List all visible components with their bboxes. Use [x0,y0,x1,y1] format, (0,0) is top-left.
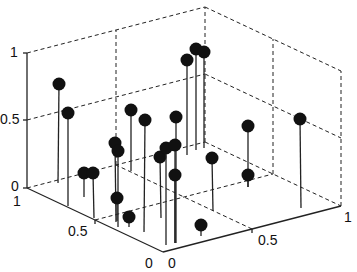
x-tick-label: 0.5 [258,232,278,248]
stem-line [300,119,301,208]
stem-marker [170,111,183,124]
y-tick-label: 0.5 [68,223,88,239]
stems [53,43,307,246]
stem-line [93,173,94,218]
stem-marker [53,78,66,91]
stem-marker [123,211,136,224]
stem-line [160,157,161,218]
stem-point [198,46,211,149]
stem-marker [242,120,255,133]
stem-point [195,219,208,237]
stem-marker [169,169,182,182]
stem-line [58,84,59,183]
stem-marker [242,169,255,182]
stem-marker [87,167,100,180]
x-tick-label: 0 [168,255,176,271]
stem3-plot: 10.5010.5000.51 [0,0,357,272]
stem-marker [195,219,208,232]
stem-marker [169,139,182,152]
stem-marker [111,192,124,205]
stem-point [181,54,194,156]
stem-marker [139,114,152,127]
stem-marker [62,107,75,120]
stem-line [144,120,145,232]
stem-marker [206,152,219,165]
stem-marker [198,46,211,59]
y-tick-label: 0 [145,255,153,271]
stem-point [294,113,307,209]
stem-point [112,145,125,228]
stem-marker [181,54,194,67]
stem-point [125,104,138,172]
y-tick-label: 1 [13,193,21,209]
stem-point [169,169,182,244]
stem-marker [125,104,138,117]
stem-marker [112,145,125,158]
z-tick-label: 0 [11,178,19,194]
stem-point [62,107,75,207]
z-tick-label: 0.5 [0,111,20,127]
stem-line [212,158,213,211]
stem-point [123,211,136,228]
stem-point [139,114,152,233]
stem-point [87,167,100,219]
z-tick-label: 1 [10,44,18,60]
stem-point [154,151,167,219]
stem-point [206,152,219,212]
x-tick-label: 1 [344,209,352,225]
stem-point [111,192,124,222]
stem-point [53,78,66,184]
stem-point [242,169,255,188]
stem-marker [294,113,307,126]
